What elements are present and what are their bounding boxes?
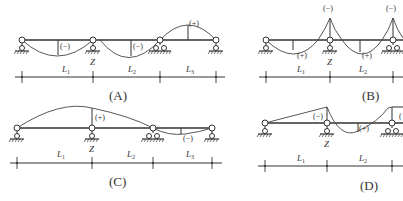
panel-d: (−) (+) ( Z L1 L2 (D) [257,107,403,193]
sign-label: (−) [60,42,70,51]
span-label-l1: L1 [61,64,70,75]
span-label-l3: L3 [185,149,194,160]
panel-label-b: (B) [362,88,379,103]
sign-label: (−) [133,42,143,51]
sign-label: (+) [189,19,199,28]
moment-curve-span-1 [266,18,330,54]
sign-label: (+) [359,124,369,133]
sign-label: (−) [386,4,396,13]
span-label-l1: L1 [296,64,305,75]
sign-label: (−) [323,4,333,13]
panel-a: (−) (−) (+) Z L1 L2 L3 (A) [14,19,225,103]
span-label-l1: L1 [296,153,305,164]
panel-label-c: (C) [109,174,126,189]
panel-label-d: (D) [360,178,378,193]
span-label-l2: L2 [126,149,135,160]
span-label-l3: L3 [185,64,194,75]
support-label-z: Z [90,57,96,67]
span-label-l2: L2 [358,153,367,164]
moment-curve-span-2 [100,40,160,58]
sign-label: (−) [313,112,323,121]
moment-curve-span-2 [330,18,393,54]
span-label-l1: L1 [56,149,65,160]
sign-label: (+) [362,51,372,60]
support-label-z: Z [89,144,95,154]
sign-label: (+) [297,51,307,60]
sign-label: (−) [183,134,193,143]
support-label-z: Z [324,139,330,149]
diagram-canvas: (−) (−) (+) Z L1 L2 L3 (A) (+) (+) (−) (… [0,0,403,201]
sign-label: ( [399,112,402,121]
sign-label: (+) [95,113,105,122]
span-label-l2: L2 [127,64,136,75]
span-label-l2: L2 [358,64,367,75]
panel-c: (+) (−) Z L1 L2 L3 (C) [9,106,222,189]
panel-b: (+) (+) (−) (−) Z L1 L2 (B) [258,4,403,103]
moment-curve [17,106,212,134]
panel-label-a: (A) [109,88,127,103]
support-label-z: Z [327,57,333,67]
